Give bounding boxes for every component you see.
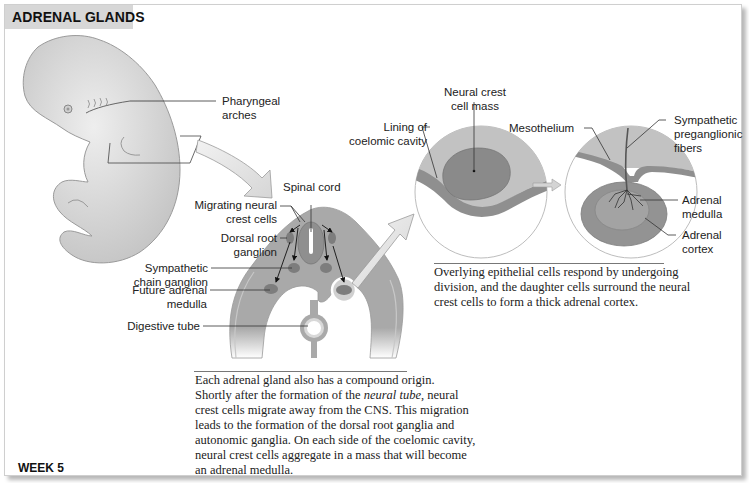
future-adrenal-medulla-right [336, 285, 352, 295]
label-spinal-cord: Spinal cord [283, 180, 341, 194]
dorsal-root-ganglion-right [328, 232, 336, 244]
embryo-illustration [23, 36, 180, 263]
label-migrating-neural-crest: Migrating neuralcrest cells [160, 198, 277, 226]
label-mesothelium: Mesothelium [509, 121, 574, 135]
trunk-cross-section [230, 207, 403, 358]
embryo-body [23, 36, 180, 263]
sympathetic-chain-ganglion-right [320, 263, 332, 273]
label-pharyngeal-arches: Pharyngealarches [222, 94, 280, 122]
detail-circle-early [410, 120, 555, 258]
digestive-tube [307, 321, 321, 335]
label-sympathetic-preganglionic-fibers: Sympatheticpreganglionicfibers [674, 113, 742, 155]
arrow-to-cross-section [196, 140, 272, 198]
label-future-adrenal-medulla: Future adrenalmedulla [110, 283, 207, 311]
label-lining-coelomic-cavity: Lining ofcoelomic cavity [330, 120, 427, 148]
label-adrenal-medulla: Adrenalmedulla [682, 193, 722, 221]
label-adrenal-cortex: Adrenalcortex [682, 228, 722, 256]
label-digestive-tube: Digestive tube [100, 319, 200, 333]
caption-rule-bottom [194, 371, 407, 372]
label-dorsal-root-ganglion: Dorsal rootganglion [180, 231, 277, 259]
caption-bottom: Each adrenal gland also has a compound o… [195, 373, 475, 478]
future-adrenal-medulla-left [264, 284, 278, 294]
caption-rule-right [434, 263, 664, 264]
caption-right: Overlying epithelial cells respond by un… [434, 265, 690, 310]
label-neural-crest-cell-mass: Neural crestcell mass [442, 85, 508, 113]
week-label: WEEK 5 [18, 461, 64, 475]
